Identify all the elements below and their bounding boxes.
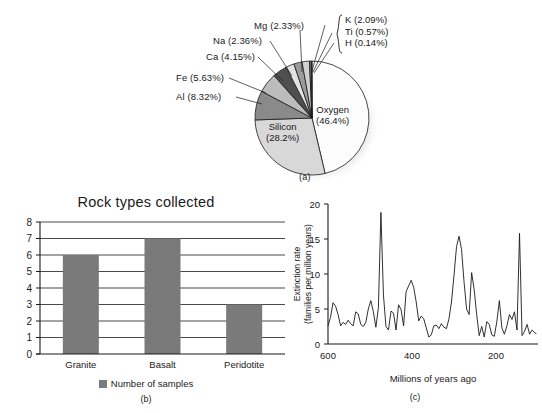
- pie-label-silicon-value: (28.2%): [266, 132, 299, 143]
- bar-y-tick-label: 1: [26, 332, 32, 343]
- panel-caption-a: (a): [299, 172, 311, 182]
- pie-label-k: K (2.09%): [345, 14, 388, 26]
- pie-label-oxygen-value: (46.4%): [316, 115, 349, 126]
- panel-caption-b: (b): [0, 394, 292, 404]
- bar-x-tick-label: Peridotite: [224, 359, 264, 370]
- bar-chart-panel: Rock types collected 012345678 GraniteBa…: [0, 192, 292, 413]
- bar-basalt: [145, 239, 181, 355]
- line-x-tick-label: 600: [320, 350, 336, 361]
- pie-label-oxygen-name: Oxygen: [316, 104, 349, 115]
- pie-slice-h: [311, 61, 312, 118]
- bar-x-tick-label: Basalt: [149, 359, 176, 370]
- bar-y-tick-label: 5: [26, 266, 32, 277]
- pie-label-na: Na (2.36%): [213, 35, 262, 46]
- bar-y-tick-label: 6: [26, 250, 32, 261]
- bar-y-tick-label: 0: [26, 349, 32, 360]
- bar-granite: [63, 255, 99, 354]
- pie-label-silicon-name: Silicon: [266, 121, 299, 132]
- line-y-tick-label: 5: [315, 304, 320, 315]
- line-chart-panel: 05101520 600400200 Extinction rate (fami…: [288, 192, 542, 413]
- pie-label-ti: Ti (0.57%): [345, 26, 388, 38]
- bar-legend-swatch: [99, 380, 107, 388]
- pie-brace-labels: K (2.09%) Ti (0.57%) H (0.14%): [345, 14, 388, 49]
- panel-caption-c: (c): [288, 392, 542, 402]
- bar-chart-svg: 012345678 GraniteBasaltPeridotite: [0, 192, 292, 392]
- line-x-tick-label: 400: [404, 350, 420, 361]
- pie-chart-panel: Oxygen (46.4%) Silicon (28.2%) Al (8.32%…: [0, 0, 542, 192]
- bar-x-tick-label: Granite: [65, 359, 96, 370]
- pie-label-al: Al (8.32%): [176, 91, 221, 102]
- line-x-tick-label: 200: [488, 350, 504, 361]
- line-x-tick-labels: 600400200: [320, 350, 504, 361]
- bar-y-tick-label: 7: [26, 233, 32, 244]
- bar-legend: Number of samples: [0, 378, 292, 389]
- pie-brace-icon: [336, 14, 344, 54]
- line-y-tick-label: 0: [315, 339, 320, 350]
- line-y-axis-label-2: (families per million years): [303, 224, 313, 324]
- bar-y-tick-label: 2: [26, 316, 32, 327]
- pie-label-oxygen: Oxygen (46.4%): [316, 104, 349, 126]
- bar-legend-label: Number of samples: [111, 378, 193, 389]
- line-y-tick-label: 20: [309, 199, 320, 210]
- bar-y-tick-label: 8: [26, 217, 32, 228]
- bar-peridotite: [226, 305, 262, 355]
- pie-label-h: H (0.14%): [345, 37, 388, 49]
- extinction-rate-line: [328, 212, 536, 337]
- pie-slices: [255, 61, 369, 175]
- pie-label-mg: Mg (2.33%): [254, 20, 304, 31]
- line-y-axis-label-1: Extinction rate: [292, 247, 302, 302]
- bar-x-tick-labels: GraniteBasaltPeridotite: [65, 359, 264, 370]
- line-x-axis-label: Millions of years ago: [390, 373, 477, 384]
- line-chart-svg: 05101520 600400200 Extinction rate (fami…: [288, 192, 542, 392]
- bar-y-tick-labels: 012345678: [26, 217, 32, 360]
- pie-label-ca: Ca (4.15%): [206, 51, 255, 62]
- bar-y-tick-label: 4: [26, 283, 32, 294]
- bar-y-tick-label: 3: [26, 299, 32, 310]
- pie-label-silicon: Silicon (28.2%): [266, 121, 299, 143]
- bar-bars: [63, 239, 262, 355]
- pie-label-fe: Fe (5.63%): [176, 72, 224, 83]
